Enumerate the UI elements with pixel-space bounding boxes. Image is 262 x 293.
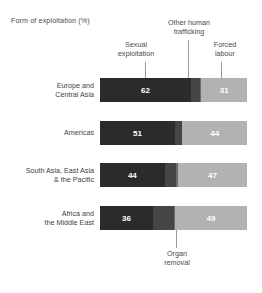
stacked-bar: 5144 xyxy=(100,121,247,145)
leader-line-forced-labour xyxy=(221,62,222,78)
annotation-organ-line2: removal xyxy=(152,258,202,267)
stacked-bar: 6231 xyxy=(100,78,247,102)
row-label-0: Europe andCentral Asia xyxy=(0,78,94,102)
row-label-line: & the Pacific xyxy=(54,175,94,184)
annotation-other-line2: trafficking xyxy=(150,27,228,36)
bar-value-label: 49 xyxy=(207,214,216,223)
annotation-other-line1: Other human xyxy=(150,18,228,27)
stacked-bar: 3649 xyxy=(100,206,247,230)
row-label-line: Americas xyxy=(64,128,94,137)
row-label-line: the Middle East xyxy=(44,218,94,227)
bar-segment-other-human-trafficking xyxy=(153,206,174,230)
leader-line-organ-removal xyxy=(176,230,177,248)
row-label-line: Central Asia xyxy=(55,90,94,99)
annotation-forced-labour: Forced labour xyxy=(203,40,247,58)
bar-value-label: 51 xyxy=(133,129,142,138)
annotation-forced-line2: labour xyxy=(203,49,247,58)
bar-value-label: 44 xyxy=(128,171,137,180)
annotation-organ-line1: Organ xyxy=(152,249,202,258)
row-label-1: Americas xyxy=(0,121,94,145)
bar-row: Americas5144 xyxy=(0,121,262,145)
row-label-line: South Asia, East Asia xyxy=(26,166,94,175)
leader-line-sexual-exploitation xyxy=(145,62,146,78)
bar-segment-sexual-exploitation: 51 xyxy=(100,121,175,145)
bar-segment-other-human-trafficking xyxy=(165,163,177,187)
bar-value-label: 62 xyxy=(141,86,150,95)
leader-line-other-human-trafficking xyxy=(188,40,189,78)
bar-value-label: 47 xyxy=(208,171,217,180)
bar-value-label: 36 xyxy=(122,214,131,223)
chart-title: Form of exploitation (%) xyxy=(11,16,90,25)
stacked-bar: 4447 xyxy=(100,163,247,187)
bar-row: Europe andCentral Asia6231 xyxy=(0,78,262,102)
bar-value-label: 44 xyxy=(210,129,219,138)
bar-segment-other-human-trafficking xyxy=(191,78,200,102)
row-label-line: Europe and xyxy=(57,81,94,90)
bar-segment-forced-labour: 49 xyxy=(175,206,247,230)
bar-segment-sexual-exploitation: 44 xyxy=(100,163,165,187)
annotation-sexual-exploitation: Sexual exploitation xyxy=(101,40,171,58)
bar-segment-sexual-exploitation: 36 xyxy=(100,206,153,230)
chart-container: Form of exploitation (%) Sexual exploita… xyxy=(0,0,262,293)
bar-segment-sexual-exploitation: 62 xyxy=(100,78,191,102)
bar-value-label: 31 xyxy=(220,86,229,95)
bar-row: Africa andthe Middle East3649 xyxy=(0,206,262,230)
annotation-forced-line1: Forced xyxy=(203,40,247,49)
annotation-sexual-line1: Sexual xyxy=(101,40,171,49)
annotation-organ-removal: Organ removal xyxy=(152,249,202,267)
annotation-other-human-trafficking: Other human trafficking xyxy=(150,18,228,36)
bar-segment-forced-labour: 31 xyxy=(201,78,247,102)
bar-row: South Asia, East Asia& the Pacific4447 xyxy=(0,163,262,187)
annotation-sexual-line2: exploitation xyxy=(101,49,171,58)
bar-segment-other-human-trafficking xyxy=(175,121,182,145)
row-label-3: Africa andthe Middle East xyxy=(0,206,94,230)
row-label-2: South Asia, East Asia& the Pacific xyxy=(0,163,94,187)
bar-segment-forced-labour: 47 xyxy=(178,163,247,187)
bar-segment-forced-labour: 44 xyxy=(182,121,247,145)
row-label-line: Africa and xyxy=(62,209,94,218)
